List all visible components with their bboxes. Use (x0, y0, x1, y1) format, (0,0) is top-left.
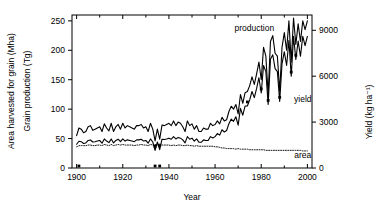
y-axis-label-production: Grain production (Tg) (22, 50, 32, 131)
x-tick-label: 1980 (252, 172, 271, 182)
drought-marker-baseline (154, 165, 157, 168)
x-axis-label: Year (183, 192, 200, 202)
series-line-area (77, 144, 308, 151)
grain-production-chart: 190019201940196019802000 050100150200250… (0, 0, 386, 205)
drought-marker (158, 144, 161, 147)
y-axis-label-area: Area harvested for grain (Mha) (6, 33, 16, 149)
y-left-tick-label: 150 (51, 75, 65, 85)
annotation-yield: yield (294, 94, 312, 104)
drought-marker (278, 96, 281, 99)
y-right-tick-label: 3000 (319, 117, 338, 127)
y-right-tick-label: 9000 (319, 25, 338, 35)
x-tick-label: 1920 (113, 172, 132, 182)
drought-marker (154, 145, 157, 148)
x-tick-label: 1940 (159, 172, 178, 182)
series-line-yield (77, 36, 308, 150)
series-line-production (77, 18, 308, 141)
y-axis-left-ticks (68, 21, 72, 168)
drought-marker (290, 71, 293, 74)
y-left-tick-label: 250 (51, 16, 65, 26)
figure-container: 190019201940196019802000 050100150200250… (0, 0, 386, 205)
y-left-tick-label: 100 (51, 104, 65, 114)
drought-marker (260, 88, 263, 91)
y-axis-right-tick-labels: 0300060009000 (319, 25, 338, 173)
y-axis-label-yield: Yield (kg ha⁻¹) (364, 84, 374, 139)
y-left-tick-label: 200 (51, 45, 65, 55)
annotation-area: area (294, 150, 311, 160)
drought-marker-baseline (78, 165, 81, 168)
drought-marker (294, 54, 297, 57)
x-tick-label: 1960 (206, 172, 225, 182)
annotation-production: production (234, 23, 274, 33)
x-tick-label: 2000 (298, 172, 317, 182)
y-left-tick-label: 50 (56, 134, 66, 144)
x-axis-ticks (77, 164, 308, 168)
x-tick-label: 1900 (67, 172, 86, 182)
y-left-tick-label: 0 (60, 163, 65, 173)
drought-marker (267, 99, 270, 102)
series-paths (77, 18, 308, 151)
x-axis-tick-labels: 190019201940196019802000 (67, 172, 317, 182)
y-axis-right-ticks (312, 30, 316, 168)
top-axis-ticks (77, 15, 308, 19)
y-axis-left-tick-labels: 050100150200250 (51, 16, 65, 173)
y-right-tick-label: 6000 (319, 71, 338, 81)
y-right-tick-label: 0 (319, 163, 324, 173)
drought-marker-baseline (158, 165, 161, 168)
drought-marker (246, 101, 249, 104)
